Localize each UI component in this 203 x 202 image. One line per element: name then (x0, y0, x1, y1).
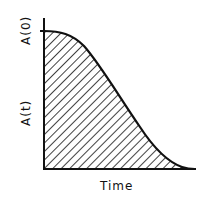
y-top-label: A(0) (19, 16, 33, 45)
x-axis-label: Time (99, 179, 133, 193)
decay-curve-diagram: A(0) A(t) Time (0, 0, 203, 202)
y-axis-label: A(t) (19, 100, 33, 126)
hatched-area (44, 28, 196, 170)
